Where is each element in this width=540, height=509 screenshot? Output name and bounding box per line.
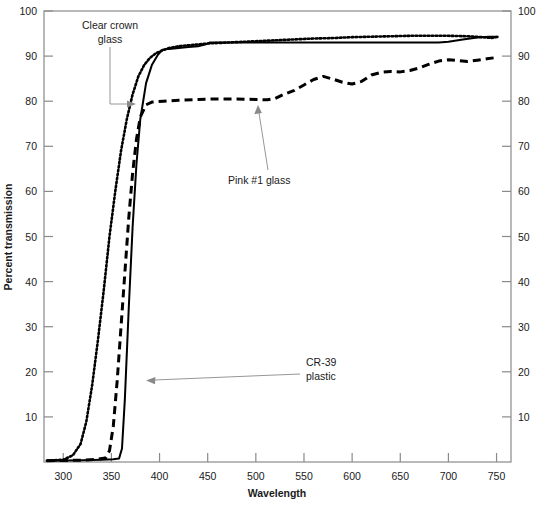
y-tick-label-right: 20 [518, 366, 530, 378]
y-tick-label-left: 100 [19, 5, 37, 17]
y-tick-label-left: 70 [25, 140, 37, 152]
y-tick-label-right: 10 [518, 411, 530, 423]
x-tick-label: 350 [103, 470, 121, 482]
y-tick-label-right: 90 [518, 50, 530, 62]
x-tick-label: 300 [54, 470, 72, 482]
y-tick-label-left: 90 [25, 50, 37, 62]
y-tick-label-left: 80 [25, 95, 37, 107]
x-tick-label: 500 [247, 470, 265, 482]
chart-background [0, 0, 540, 509]
x-tick-label: 700 [440, 470, 458, 482]
annotation-pink-1-glass: Pink #1 glass [228, 174, 290, 186]
y-tick-label-left: 10 [25, 411, 37, 423]
x-tick-label: 600 [343, 470, 361, 482]
transmission-chart: 102030405060708090100 102030405060708090… [0, 0, 540, 509]
x-tick-label: 450 [199, 470, 217, 482]
y-tick-label-right: 50 [518, 231, 530, 243]
x-tick-label: 550 [295, 470, 313, 482]
y-tick-label-right: 40 [518, 276, 530, 288]
y-tick-label-right: 30 [518, 321, 530, 333]
annotation-clear-crown-glass-line2: glass [98, 33, 123, 45]
y-tick-label-right: 60 [518, 185, 530, 197]
y-tick-label-right: 80 [518, 95, 530, 107]
y-tick-label-left: 50 [25, 231, 37, 243]
x-tick-label: 650 [392, 470, 410, 482]
chart-svg: 102030405060708090100 102030405060708090… [0, 0, 540, 509]
x-tick-label: 400 [151, 470, 169, 482]
y-tick-label-left: 30 [25, 321, 37, 333]
y-tick-label-left: 40 [25, 276, 37, 288]
y-tick-label-right: 70 [518, 140, 530, 152]
y-tick-label-left: 20 [25, 366, 37, 378]
x-axis-title: Wavelength [248, 487, 307, 499]
x-tick-label: 750 [488, 470, 506, 482]
y-axis-title: Percent transmission [2, 184, 14, 291]
y-tick-label-left: 60 [25, 185, 37, 197]
annotation-cr-39-plastic-line1: CR-39 [306, 356, 337, 368]
annotation-cr-39-plastic-line2: plastic [306, 370, 336, 382]
y-tick-label-right: 100 [518, 5, 536, 17]
annotation-clear-crown-glass-line1: Clear crown [82, 19, 138, 31]
